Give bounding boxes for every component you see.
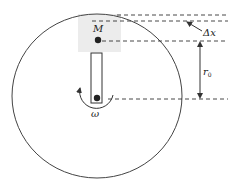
- radius-arrow-up-icon: [197, 41, 203, 47]
- mass-dot: [95, 37, 101, 43]
- pivot-dot: [94, 95, 100, 101]
- delta-x-label: Δx: [202, 27, 216, 38]
- diagram-canvas: M Δx r0 ω: [0, 0, 235, 184]
- radius-arrow-down-icon: [197, 93, 203, 99]
- delta-x-arrow-icon: [187, 22, 202, 31]
- mass-label: M: [92, 23, 104, 34]
- radius-label: r0: [203, 66, 212, 78]
- radius-label-subscript: 0: [208, 71, 212, 78]
- omega-label: ω: [91, 108, 99, 119]
